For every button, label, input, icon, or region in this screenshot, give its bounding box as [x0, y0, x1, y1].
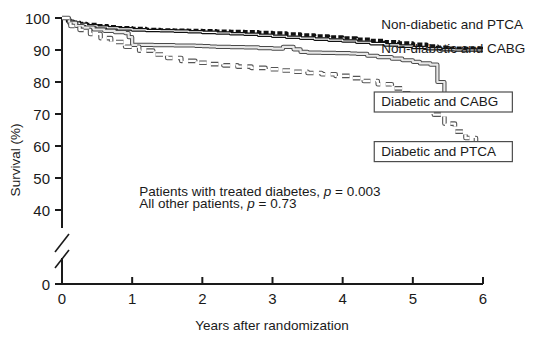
y-axis-title: Survival (%): [8, 124, 23, 197]
x-tick-label-4: 4: [338, 290, 346, 307]
p-value: = 0.003: [331, 184, 380, 199]
series-label-non-diabetic-and-ptca: Non-diabetic and PTCA: [381, 17, 523, 32]
y-tick-label-70: 70: [33, 106, 50, 123]
series-label-non-diabetic-and-cabg: Non-diabetic and CABG: [381, 41, 525, 56]
x-tick-label-0: 0: [58, 290, 66, 307]
x-tick-label-3: 3: [268, 290, 276, 307]
series-label-diabetic-and-cabg: Diabetic and CABG: [381, 94, 498, 109]
y-tick-label-0: 0: [42, 276, 50, 293]
y-tick-label-80: 80: [33, 74, 50, 91]
x-tick-label-5: 5: [409, 290, 417, 307]
y-tick-label-50: 50: [33, 170, 50, 187]
annotation-text: All other patients,: [139, 196, 247, 211]
x-tick-label-2: 2: [198, 290, 206, 307]
annotation-p-other: All other patients, p = 0.73: [139, 196, 296, 211]
p-value: = 0.73: [255, 196, 297, 211]
survival-chart-figure: 0405060708090100 0123456 Survival (%) Ye…: [0, 0, 557, 342]
x-axis-title: Years after randomization: [195, 318, 348, 333]
x-tick-label-1: 1: [128, 290, 136, 307]
series-label-diabetic-and-ptca: Diabetic and PTCA: [381, 144, 496, 159]
y-tick-label-100: 100: [25, 10, 50, 27]
y-tick-label-60: 60: [33, 138, 50, 155]
y-tick-label-90: 90: [33, 42, 50, 59]
x-tick-label-6: 6: [479, 290, 487, 307]
y-tick-label-40: 40: [33, 202, 50, 219]
kaplan-meier-survival-chart: 0405060708090100 0123456 Survival (%) Ye…: [0, 0, 557, 342]
